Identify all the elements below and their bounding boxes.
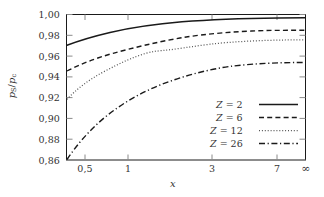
y-axis-title-num-sub: S xyxy=(10,87,18,92)
legend-var-z6: Z xyxy=(216,112,223,123)
y-tick-label-2: 0,98 xyxy=(22,30,60,41)
y-axis-title-den-sub: c xyxy=(10,74,18,78)
legend-val-z26: 26 xyxy=(231,138,243,149)
y-tick-label-1: 1,00 xyxy=(22,9,60,20)
y-tick-label-7: 0,88 xyxy=(22,134,60,145)
legend-var-z26: Z xyxy=(210,138,217,149)
x-tick-label-1: 0,5 xyxy=(68,163,102,174)
legend-eq-z12: = xyxy=(217,125,231,136)
legend-eq-z6: = xyxy=(223,112,237,123)
legend-val-z12: 12 xyxy=(231,125,243,136)
y-axis-title-den: p xyxy=(6,78,17,84)
y-tick-label-8: 0,86 xyxy=(22,155,60,166)
legend-entry-z26: Z = 26 xyxy=(210,138,243,149)
legend-eq-z26: = xyxy=(217,138,231,149)
axes-frame xyxy=(67,15,306,161)
y-axis-title: pS/pc xyxy=(6,56,18,116)
y-tick-label-3: 0,96 xyxy=(22,51,60,62)
y-tick-label-5: 0,92 xyxy=(22,92,60,103)
y-tick-label-6: 0,90 xyxy=(22,113,60,124)
y-tick-label-4: 0,94 xyxy=(22,71,60,82)
legend-var-z2: Z xyxy=(216,99,223,110)
legend-var-z12: Z xyxy=(210,125,217,136)
y-axis-title-num: p xyxy=(6,92,17,98)
legend-val-z2: 2 xyxy=(237,99,243,110)
y-axis-title-slash: / xyxy=(6,84,17,87)
legend-val-z6: 6 xyxy=(237,112,243,123)
legend-entry-z2: Z = 2 xyxy=(216,99,243,110)
legend-entry-z12: Z = 12 xyxy=(210,125,243,136)
chart-figure: 1,00 0,98 0,96 0,94 0,92 0,90 0,88 0,86 … xyxy=(0,0,324,197)
x-axis-title: x xyxy=(170,178,176,189)
x-tick-label-3: 3 xyxy=(195,163,229,174)
x-tick-label-infinity: ∞ xyxy=(289,162,323,175)
x-tick-label-2: 1 xyxy=(111,163,145,174)
legend-entry-z6: Z = 6 xyxy=(216,112,243,123)
legend-eq-z2: = xyxy=(223,99,237,110)
